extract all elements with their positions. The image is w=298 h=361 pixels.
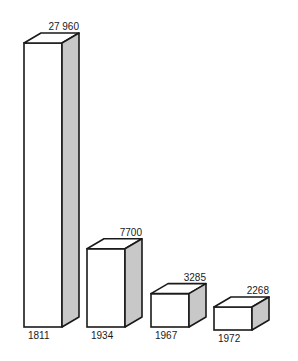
bar-1972: 22681972 — [214, 285, 269, 344]
category-label: 1967 — [155, 330, 178, 341]
value-label: 3285 — [184, 272, 207, 283]
bar-front-face — [214, 307, 252, 330]
bars-group: 27 9601811770019343285196722681972 — [24, 21, 269, 344]
bar-side-face — [62, 33, 79, 327]
bar-1934: 77001934 — [87, 227, 142, 341]
bar-side-face — [125, 239, 142, 327]
bar-1967: 32851967 — [151, 272, 206, 341]
value-label: 2268 — [247, 285, 270, 296]
bar-chart: 27 9601811770019343285196722681972 — [0, 0, 298, 361]
value-label: 7700 — [120, 227, 143, 238]
bar-1811: 27 9601811 — [24, 21, 79, 341]
value-label: 27 960 — [48, 21, 79, 32]
category-label: 1972 — [218, 333, 241, 344]
bar-front-face — [151, 294, 189, 327]
bar-front-face — [87, 249, 125, 327]
category-label: 1811 — [28, 330, 50, 341]
category-label: 1934 — [91, 330, 114, 341]
bar-front-face — [24, 43, 62, 327]
